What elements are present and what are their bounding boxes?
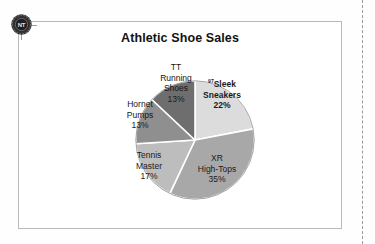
chart-title: Athletic Shoe Sales: [18, 31, 342, 45]
seal-badge-icon[interactable]: NT: [11, 14, 32, 35]
page-margin-guide: [362, 0, 363, 244]
pie-chart-svg: [135, 80, 255, 200]
page-canvas: NT Athletic Shoe Sales 97Sleek Sneakers …: [0, 0, 375, 244]
badge-label: NT: [11, 14, 32, 35]
pie-slice-group: [136, 81, 254, 199]
pie-chart: [135, 80, 255, 200]
